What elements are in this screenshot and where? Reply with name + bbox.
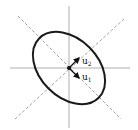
vector-u2-arrow	[69, 58, 79, 68]
label-u1: u1	[82, 72, 92, 83]
ellipse-diagram: u2 u1	[0, 0, 138, 130]
label-u2: u2	[82, 56, 92, 67]
vector-u1-arrow	[69, 68, 79, 78]
